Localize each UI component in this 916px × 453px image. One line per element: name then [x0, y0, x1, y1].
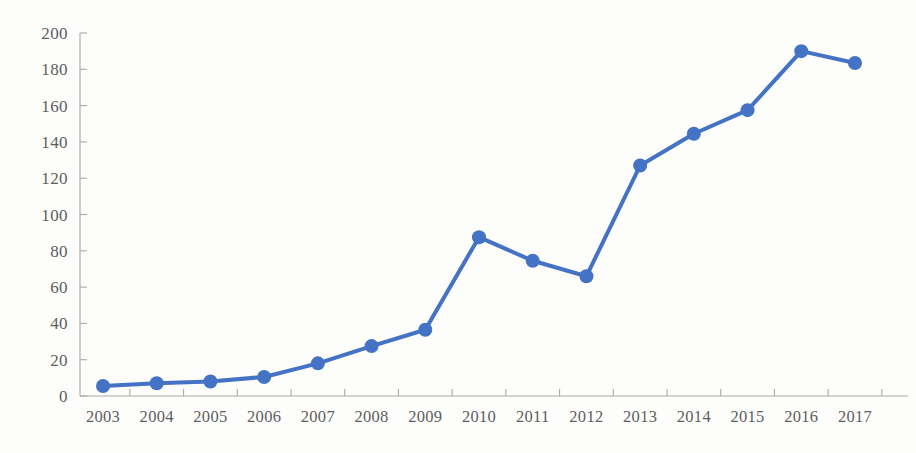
data-point-hit-2003[interactable]	[91, 374, 115, 398]
axes	[80, 33, 908, 396]
data-point-hit-2007[interactable]	[306, 351, 330, 375]
y-axis-ticks	[80, 33, 87, 396]
data-point-hit-2013[interactable]	[628, 154, 652, 178]
data-point-hit-2017[interactable]	[843, 51, 867, 75]
data-point-hit-2015[interactable]	[736, 98, 760, 122]
data-point-hit-2010[interactable]	[467, 225, 491, 249]
data-point-hit-2016[interactable]	[789, 39, 813, 63]
data-point-hit-2004[interactable]	[145, 371, 169, 395]
data-point-markers	[91, 39, 867, 398]
data-point-hit-2008[interactable]	[360, 334, 384, 358]
line-chart-canvas	[0, 0, 916, 453]
x-axis-tick-label: 2017	[823, 409, 887, 426]
data-point-hit-2009[interactable]	[413, 318, 437, 342]
x-axis-ticks	[130, 389, 882, 396]
x-axis-tick-labels: 2003200420052006200720082009201020112012…	[0, 409, 916, 439]
data-point-hit-2006[interactable]	[252, 365, 276, 389]
data-point-hit-2014[interactable]	[682, 122, 706, 146]
data-point-hit-2005[interactable]	[198, 369, 222, 393]
chart-page: 020406080100120140160180200 200320042005…	[0, 0, 916, 453]
data-point-hit-2011[interactable]	[521, 249, 545, 273]
data-point-hit-2012[interactable]	[574, 264, 598, 288]
